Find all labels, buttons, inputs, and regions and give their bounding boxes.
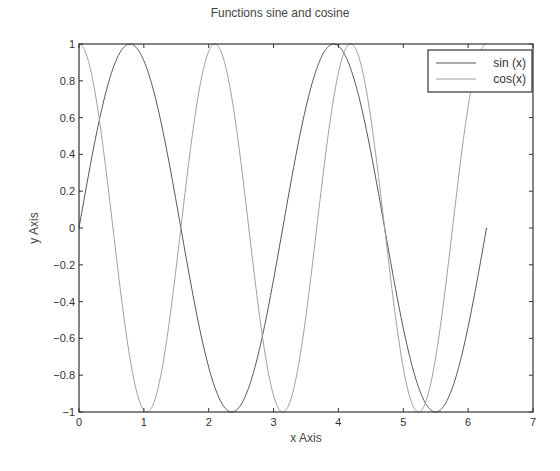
y-tick-label: −0.4 [53,296,75,308]
y-tick-label: 0.6 [60,112,75,124]
x-tick-label: 1 [141,416,147,428]
plot-area: 01234567−1−0.8−0.6−0.4−0.200.20.40.60.81… [0,0,560,471]
x-tick-label: 7 [530,416,536,428]
y-axis-label: y Axis [27,212,41,243]
legend-label-1: cos(x) [493,72,526,86]
x-tick-label: 5 [400,416,406,428]
legend-label-0: sin (x) [493,56,526,70]
y-tick-label: 0.2 [60,185,75,197]
y-tick-label: −1 [62,406,75,418]
x-tick-label: 4 [335,416,341,428]
y-tick-label: −0.8 [53,369,75,381]
series-line-0 [79,44,487,412]
y-tick-label: −0.6 [53,332,75,344]
y-tick-label: −0.2 [53,259,75,271]
y-tick-label: 0.8 [60,75,75,87]
y-tick-label: 1 [69,38,75,50]
x-axis-label: x Axis [290,431,321,445]
x-tick-label: 6 [465,416,471,428]
x-tick-label: 2 [206,416,212,428]
y-tick-label: 0.4 [60,148,75,160]
axes-box [79,44,533,412]
x-tick-label: 3 [271,416,277,428]
x-tick-label: 0 [76,416,82,428]
y-tick-label: 0 [69,222,75,234]
